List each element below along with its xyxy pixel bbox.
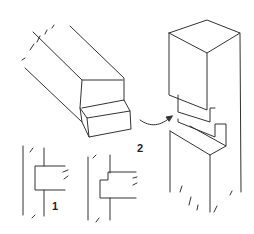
detail-figure-2 bbox=[88, 155, 137, 222]
detail-figure-1 bbox=[23, 146, 68, 218]
figure-2-label: 2 bbox=[137, 142, 143, 154]
joinery-diagram bbox=[0, 0, 254, 234]
stepped-beam-illustration bbox=[22, 25, 131, 137]
post-illustration bbox=[169, 20, 241, 212]
figure-1-label: 1 bbox=[52, 200, 58, 212]
